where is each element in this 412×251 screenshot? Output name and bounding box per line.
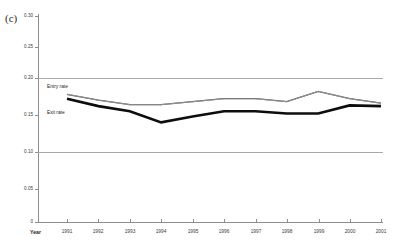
entry-rate-line-fill: [67, 91, 381, 104]
figure-panel: (c) 0.30 0.25 0.20 0.15 0.10 0.05 0 Year…: [0, 0, 412, 251]
chart-lines: [0, 0, 412, 251]
entry-rate-label: Entry rate: [47, 84, 68, 89]
exit-rate-label: Exit rate: [47, 110, 65, 115]
